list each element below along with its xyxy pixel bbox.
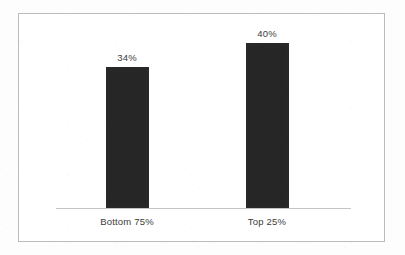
x-axis-line	[56, 208, 351, 209]
category-label-top-25: Top 25%	[207, 216, 327, 227]
plot-area: 34% 40% Bottom 75% Top 25%	[19, 14, 384, 241]
bar-chart: 34% 40% Bottom 75% Top 25%	[0, 0, 405, 255]
bar-value-label-bottom-75: 34%	[97, 52, 157, 63]
bar-top-25	[246, 43, 289, 208]
bar-bottom-75	[106, 67, 149, 208]
chart-frame: 34% 40% Bottom 75% Top 25%	[18, 13, 385, 242]
bar-value-label-top-25: 40%	[237, 28, 297, 39]
category-label-bottom-75: Bottom 75%	[67, 216, 187, 227]
